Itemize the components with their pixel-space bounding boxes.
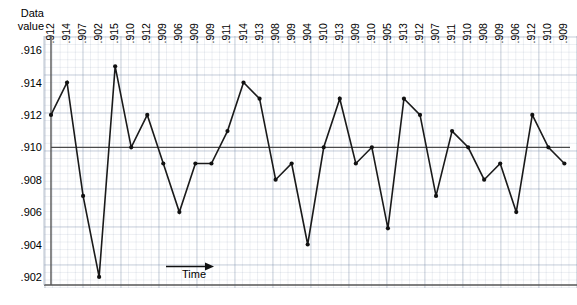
data-point-marker (338, 97, 342, 101)
data-point-marker (49, 113, 53, 117)
data-point-marker (562, 161, 566, 165)
data-point-marker (466, 145, 470, 149)
data-point-marker (177, 210, 181, 214)
data-point-marker (434, 194, 438, 198)
plot-area (0, 0, 577, 305)
data-point-marker (418, 113, 422, 117)
data-point-marker (450, 129, 454, 133)
data-point-marker (257, 97, 261, 101)
data-point-marker (161, 161, 165, 165)
data-point-marker (498, 161, 502, 165)
data-point-marker (145, 113, 149, 117)
data-point-marker (322, 145, 326, 149)
data-point-marker (482, 178, 486, 182)
data-point-marker (241, 80, 245, 84)
data-point-marker (306, 242, 310, 246)
x-axis-label: Time (182, 268, 206, 280)
data-point-marker (65, 80, 69, 84)
data-point-marker (193, 161, 197, 165)
axes-group (44, 36, 577, 285)
data-point-marker (274, 178, 278, 182)
data-point-marker (81, 194, 85, 198)
data-point-marker (113, 64, 117, 68)
data-point-marker (546, 145, 550, 149)
data-point-marker (97, 275, 101, 279)
data-point-markers (49, 64, 567, 279)
data-point-marker (386, 226, 390, 230)
data-point-marker (290, 161, 294, 165)
data-point-marker (370, 145, 374, 149)
data-point-marker (354, 161, 358, 165)
data-point-marker (129, 145, 133, 149)
data-point-marker (225, 129, 229, 133)
data-point-marker (530, 113, 534, 117)
data-point-marker (514, 210, 518, 214)
data-point-marker (402, 97, 406, 101)
chart-container: Data value .916.914.912.910.908.906.904.… (0, 0, 577, 305)
data-point-marker (209, 161, 213, 165)
